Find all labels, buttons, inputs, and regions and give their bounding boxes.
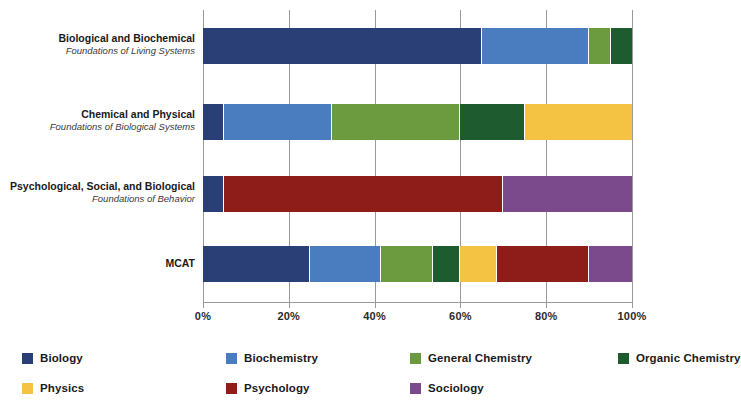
x-tick-mark: [289, 302, 290, 308]
legend-row-1: BiologyBiochemistryGeneral ChemistryOrga…: [22, 352, 642, 382]
row-label-title: Biological and Biochemical: [0, 32, 195, 45]
x-axis-baseline: [203, 302, 633, 303]
legend-label: Physics: [40, 382, 84, 394]
row-label-bio-biochem: Biological and BiochemicalFoundations of…: [0, 32, 195, 57]
bar-segment-sociology: [589, 246, 632, 282]
row-label-title: Psychological, Social, and Biological: [0, 180, 195, 193]
bar-segment-organic-chemistry: [611, 28, 632, 64]
legend-label: Organic Chemistry: [636, 352, 741, 364]
row-label-title: MCAT: [0, 257, 195, 270]
x-tick-mark: [375, 302, 376, 308]
bar-segment-biochemistry: [224, 104, 331, 140]
row-label-chem-phys: Chemical and PhysicalFoundations of Biol…: [0, 108, 195, 133]
bar-segment-psychology: [497, 246, 589, 282]
x-tick-label: 40%: [363, 310, 386, 322]
legend-item-sociology[interactable]: Sociology: [410, 382, 484, 394]
row-label-subtitle: Foundations of Behavior: [0, 193, 195, 205]
legend-swatch-icon: [226, 353, 237, 364]
stacked-bar-chem-phys: [203, 104, 632, 140]
bar-row-chem-phys: Chemical and PhysicalFoundations of Biol…: [0, 104, 657, 140]
chart-legend: BiologyBiochemistryGeneral ChemistryOrga…: [22, 352, 642, 410]
bar-segment-physics: [525, 104, 632, 140]
legend-label: Psychology: [244, 382, 310, 394]
bar-segment-sociology: [503, 176, 632, 212]
x-tick-label: 100%: [618, 310, 647, 322]
bar-segment-general-chemistry: [332, 104, 461, 140]
stacked-bar-bio-biochem: [203, 28, 632, 64]
legend-item-general-chemistry[interactable]: General Chemistry: [410, 352, 532, 364]
stacked-bar-mcat: [203, 246, 632, 282]
bar-segment-biology: [203, 104, 224, 140]
bar-segment-biology: [203, 28, 482, 64]
legend-swatch-icon: [22, 383, 33, 394]
legend-swatch-icon: [618, 353, 629, 364]
x-tick-label: 60%: [449, 310, 472, 322]
legend-label: General Chemistry: [428, 352, 532, 364]
bar-segment-organic-chemistry: [433, 246, 461, 282]
x-tick-mark: [632, 302, 633, 308]
x-tick-mark: [546, 302, 547, 308]
legend-row-2: PhysicsPsychologySociology: [22, 382, 642, 410]
bar-segment-biochemistry: [482, 28, 589, 64]
stacked-bar-psych-soc-bio: [203, 176, 632, 212]
bar-row-psych-soc-bio: Psychological, Social, and BiologicalFou…: [0, 176, 657, 212]
legend-swatch-icon: [410, 353, 421, 364]
bar-segment-biochemistry: [310, 246, 381, 282]
bar-segment-psychology: [224, 176, 503, 212]
row-label-title: Chemical and Physical: [0, 108, 195, 121]
bar-segment-biology: [203, 176, 224, 212]
legend-label: Sociology: [428, 382, 484, 394]
x-tick-mark: [203, 302, 204, 308]
legend-label: Biochemistry: [244, 352, 318, 364]
bar-segment-physics: [460, 246, 496, 282]
row-label-mcat: MCAT: [0, 257, 195, 270]
bar-segment-organic-chemistry: [460, 104, 524, 140]
legend-item-biochemistry[interactable]: Biochemistry: [226, 352, 318, 364]
legend-item-biology[interactable]: Biology: [22, 352, 83, 364]
legend-swatch-icon: [226, 383, 237, 394]
bar-segment-biology: [203, 246, 310, 282]
bar-row-mcat: MCAT: [0, 246, 657, 282]
row-label-subtitle: Foundations of Biological Systems: [0, 121, 195, 133]
x-tick-label: 0%: [195, 310, 211, 322]
row-label-psych-soc-bio: Psychological, Social, and BiologicalFou…: [0, 180, 195, 205]
legend-swatch-icon: [22, 353, 33, 364]
legend-label: Biology: [40, 352, 83, 364]
row-label-subtitle: Foundations of Living Systems: [0, 45, 195, 57]
bar-segment-general-chemistry: [381, 246, 432, 282]
x-tick-label: 80%: [535, 310, 558, 322]
x-tick-mark: [460, 302, 461, 308]
bar-row-bio-biochem: Biological and BiochemicalFoundations of…: [0, 28, 657, 64]
x-tick-label: 20%: [277, 310, 300, 322]
bar-segment-general-chemistry: [589, 28, 610, 64]
legend-swatch-icon: [410, 383, 421, 394]
legend-item-psychology[interactable]: Psychology: [226, 382, 310, 394]
legend-item-organic-chemistry[interactable]: Organic Chemistry: [618, 352, 741, 364]
legend-item-physics[interactable]: Physics: [22, 382, 84, 394]
